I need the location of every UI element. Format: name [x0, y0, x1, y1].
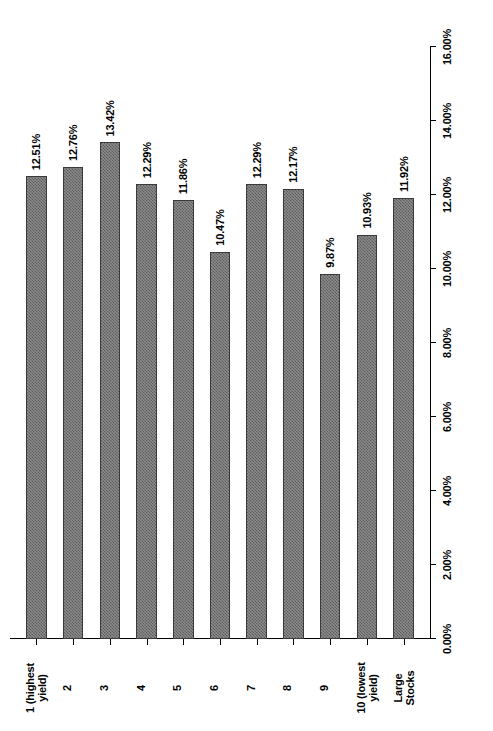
bar-value-label: 12.29% — [251, 142, 263, 178]
bar-value-label: 12.51% — [30, 134, 42, 170]
bar-row: 12.29% — [246, 47, 267, 639]
category-tick — [293, 639, 294, 645]
value-axis-line — [430, 47, 431, 639]
category-label: 4 — [135, 647, 147, 729]
value-tick-label: 4.00% — [441, 476, 453, 506]
value-tick — [430, 120, 436, 121]
bar-value-label: 10.93% — [361, 192, 373, 228]
category-tick — [147, 639, 148, 645]
bar[interactable] — [357, 235, 378, 639]
category-tick — [73, 639, 74, 645]
plot-area: 12.51%12.76%13.42%12.29%11.86%10.47%12.2… — [18, 47, 422, 639]
bar[interactable] — [173, 200, 194, 639]
bar-row: 12.76% — [63, 47, 84, 639]
category-tick — [220, 639, 221, 645]
bar-value-label: 10.47% — [214, 210, 226, 246]
bar[interactable] — [63, 167, 84, 639]
bar-value-label: 12.76% — [67, 125, 79, 161]
value-tick — [430, 268, 436, 269]
category-tick — [36, 639, 37, 645]
category-tick — [367, 639, 368, 645]
category-label: 8 — [281, 647, 293, 729]
category-label: 5 — [171, 647, 183, 729]
category-label: 10 (lowest yield) — [355, 647, 379, 729]
bar-row: 12.17% — [283, 47, 304, 639]
bar[interactable] — [320, 274, 341, 639]
category-tick — [183, 639, 184, 645]
category-tick — [257, 639, 258, 645]
bar[interactable] — [283, 189, 304, 639]
bar-value-label: 13.42% — [104, 100, 116, 136]
bar[interactable] — [393, 198, 414, 639]
value-tick — [430, 416, 436, 417]
value-tick — [430, 46, 436, 47]
bar-row: 9.87% — [320, 47, 341, 639]
value-tick-label: 0.00% — [441, 624, 453, 654]
value-tick-label: 12.00% — [441, 177, 453, 213]
bar[interactable] — [136, 184, 157, 639]
category-tick — [404, 639, 405, 645]
value-tick-label: 6.00% — [441, 402, 453, 432]
bar-row: 11.86% — [173, 47, 194, 639]
chart-page: 12.51%12.76%13.42%12.29%11.86%10.47%12.2… — [0, 0, 493, 731]
bar[interactable] — [100, 142, 121, 639]
bar[interactable] — [26, 176, 47, 639]
value-tick — [430, 342, 436, 343]
category-label: 3 — [98, 647, 110, 729]
category-label: 6 — [208, 647, 220, 729]
bar-row: 13.42% — [100, 47, 121, 639]
value-tick-label: 10.00% — [441, 251, 453, 287]
value-tick — [430, 194, 436, 195]
category-label: 1 (highest yield) — [24, 647, 48, 729]
value-tick — [430, 564, 436, 565]
category-label: 2 — [61, 647, 73, 729]
bar-chart: 12.51%12.76%13.42%12.29%11.86%10.47%12.2… — [0, 0, 493, 731]
bar-value-label: 11.92% — [398, 156, 410, 192]
bar-value-label: 11.86% — [177, 159, 189, 195]
bar-row: 10.93% — [357, 47, 378, 639]
bar-value-label: 9.87% — [324, 238, 336, 268]
bar-row: 12.29% — [136, 47, 157, 639]
category-label: Large Stocks — [392, 647, 416, 729]
bar-value-label: 12.29% — [141, 142, 153, 178]
bar-value-label: 12.17% — [287, 147, 299, 183]
bar-row: 10.47% — [210, 47, 231, 639]
value-tick-label: 2.00% — [441, 550, 453, 580]
category-tick — [110, 639, 111, 645]
category-tick — [330, 639, 331, 645]
bar-row: 12.51% — [26, 47, 47, 639]
category-label: 7 — [245, 647, 257, 729]
value-tick — [430, 638, 436, 639]
value-tick-label: 14.00% — [441, 103, 453, 139]
bar-row: 11.92% — [393, 47, 414, 639]
category-label: 9 — [318, 647, 330, 729]
value-tick — [430, 490, 436, 491]
bar[interactable] — [246, 184, 267, 639]
value-tick-label: 16.00% — [441, 29, 453, 65]
rotated-figure: 12.51%12.76%13.42%12.29%11.86%10.47%12.2… — [0, 0, 493, 731]
value-tick-label: 8.00% — [441, 328, 453, 358]
bar[interactable] — [210, 252, 231, 639]
